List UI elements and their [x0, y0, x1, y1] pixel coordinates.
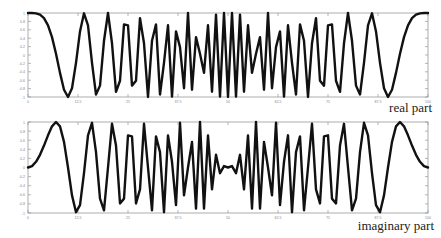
x-tick-label: 37.5 — [175, 216, 182, 220]
x-tick-label: 12.5 — [75, 100, 82, 104]
data-line — [28, 13, 428, 97]
y-tick-label: -0.2 — [19, 175, 25, 179]
y-tick-label: 0.2 — [20, 157, 25, 161]
x-tick-label: 0 — [27, 100, 29, 104]
x-tick-label: 75 — [326, 216, 330, 220]
real-part-plot: 10.80.60.40.20-0.2-0.4-0.6-0.8-1012.5253… — [19, 12, 431, 105]
y-tick-label: 0.4 — [20, 148, 25, 152]
x-tick-label: 62.5 — [275, 100, 282, 104]
x-tick-label: 50 — [226, 100, 230, 104]
y-tick-label: 0.8 — [20, 20, 25, 24]
y-tick-label: 1 — [23, 121, 25, 125]
figure: 10.80.60.40.20-0.2-0.4-0.6-0.8-1012.5253… — [0, 0, 441, 238]
x-tick-label: 50 — [226, 216, 230, 220]
y-tick-label: 0.4 — [20, 37, 25, 41]
y-tick-label: -0.2 — [19, 62, 25, 66]
real-part-caption: real part — [389, 100, 432, 116]
x-tick-label: 75 — [326, 100, 330, 104]
x-tick-label: 87.5 — [375, 100, 382, 104]
imaginary-part-caption: imaginary part — [358, 218, 434, 234]
y-tick-label: 0.6 — [20, 139, 25, 143]
x-tick-label: 12.5 — [75, 216, 82, 220]
y-tick-label: -0.4 — [19, 70, 25, 74]
y-tick-label: 0.6 — [20, 28, 25, 32]
y-tick-label: 0 — [23, 54, 25, 58]
y-tick-label: -0.6 — [19, 79, 25, 83]
x-tick-label: 25 — [126, 216, 130, 220]
x-tick-label: 0 — [27, 216, 29, 220]
x-tick-label: 62.5 — [275, 216, 282, 220]
y-tick-label: 0.8 — [20, 130, 25, 134]
y-tick-label: 1 — [23, 12, 25, 16]
x-tick-label: 25 — [126, 100, 130, 104]
y-tick-label: 0 — [23, 166, 25, 170]
x-tick-label: 37.5 — [175, 100, 182, 104]
y-tick-label: -0.4 — [19, 184, 25, 188]
y-tick-label: 0.2 — [20, 45, 25, 49]
y-tick-label: -0.8 — [19, 202, 25, 206]
y-tick-label: -0.6 — [19, 193, 25, 197]
y-tick-label: -0.8 — [19, 87, 25, 91]
imaginary-part-plot: 10.80.60.40.20-0.2-0.4-0.6-0.8-1012.5253… — [19, 121, 431, 221]
y-tick-label: -1 — [22, 96, 25, 100]
y-tick-label: -1 — [22, 212, 25, 216]
data-line — [28, 122, 428, 212]
